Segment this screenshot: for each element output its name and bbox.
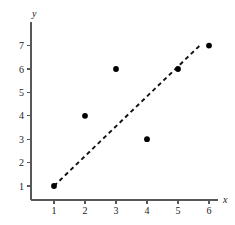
chart-canvas: 1234567 123456 y x xyxy=(0,0,235,225)
x-tick-label: 3 xyxy=(114,205,119,216)
data-point xyxy=(82,113,88,119)
x-tick-label: 1 xyxy=(52,205,57,216)
y-tick-label: 6 xyxy=(19,64,24,75)
x-tick-label: 4 xyxy=(145,205,150,216)
y-axis-label: y xyxy=(31,8,37,19)
data-point xyxy=(144,136,150,142)
x-tick-label: 6 xyxy=(207,205,212,216)
y-tick-label: 3 xyxy=(19,134,24,145)
data-point-series xyxy=(51,43,212,189)
data-point xyxy=(206,43,212,49)
x-axis-label: x xyxy=(222,194,228,205)
data-point xyxy=(175,66,181,72)
x-tick-label: 5 xyxy=(176,205,181,216)
scatter-plot-figure: 1234567 123456 y x xyxy=(0,0,235,225)
axes-group xyxy=(31,22,218,200)
data-point xyxy=(113,66,119,72)
x-axis-ticks: 123456 xyxy=(52,200,212,216)
y-tick-label: 1 xyxy=(19,181,24,192)
y-axis-ticks: 1234567 xyxy=(19,40,31,191)
y-tick-label: 5 xyxy=(19,87,24,98)
x-tick-label: 2 xyxy=(83,205,88,216)
data-point xyxy=(51,183,57,189)
y-tick-label: 2 xyxy=(19,157,24,168)
y-tick-label: 7 xyxy=(19,40,24,51)
y-tick-label: 4 xyxy=(19,110,24,121)
